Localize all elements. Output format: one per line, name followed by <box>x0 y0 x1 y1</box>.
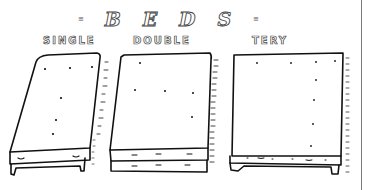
single-bed <box>10 53 108 175</box>
tery-bed <box>230 53 349 174</box>
beds-illustration <box>0 0 369 190</box>
double-bed <box>110 53 218 172</box>
page-edge-divider <box>361 0 362 190</box>
